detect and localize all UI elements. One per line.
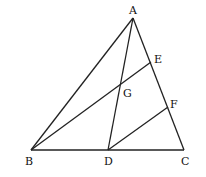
label-c: C bbox=[181, 155, 189, 168]
label-b: B bbox=[25, 155, 33, 168]
label-a: A bbox=[128, 4, 138, 17]
label-e: E bbox=[154, 53, 162, 66]
label-f: F bbox=[170, 98, 178, 111]
triangle-diagram: A B C D E F G bbox=[0, 0, 206, 177]
label-g: G bbox=[123, 87, 132, 100]
segment-ac bbox=[133, 18, 184, 150]
segment-ab bbox=[31, 18, 133, 150]
label-d: D bbox=[104, 155, 113, 168]
segment-be bbox=[31, 62, 151, 150]
segment-df bbox=[108, 107, 168, 150]
